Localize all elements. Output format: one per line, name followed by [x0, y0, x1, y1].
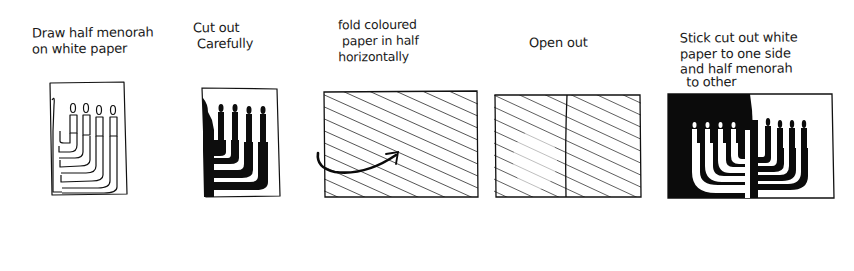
- full-menorah-illustration: [0, 0, 854, 271]
